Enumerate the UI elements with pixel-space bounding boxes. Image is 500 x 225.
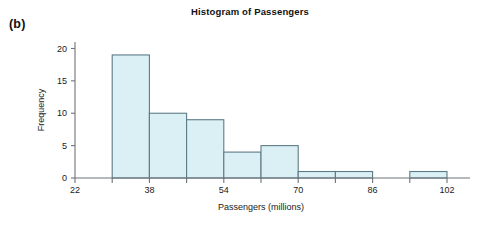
x-axis-title: Passengers (millions): [218, 202, 304, 212]
y-tick-label: 10: [57, 108, 67, 118]
histogram-bar: [335, 172, 372, 178]
bars-group: [112, 55, 447, 178]
y-tick-label: 20: [57, 44, 67, 54]
x-tick-label: 102: [439, 185, 454, 195]
histogram-bar: [149, 113, 186, 178]
histogram-bar: [112, 55, 149, 178]
histogram-bar: [224, 152, 261, 178]
histogram-bar: [261, 146, 298, 178]
y-axis-title: Frequency: [36, 88, 46, 131]
x-tick-label: 86: [368, 185, 378, 195]
x-tick-label: 38: [144, 185, 154, 195]
y-axis-group: 05101520: [57, 42, 75, 183]
x-axis-group: 2238547086102: [70, 178, 470, 195]
histogram-bar: [298, 172, 335, 178]
y-tick-label: 15: [57, 76, 67, 86]
x-tick-label: 22: [70, 185, 80, 195]
histogram-figure: (b) Histogram of Passengers 05101520 223…: [0, 0, 500, 225]
histogram-bar: [410, 172, 447, 178]
x-tick-label: 54: [219, 185, 229, 195]
histogram-bar: [187, 120, 224, 178]
y-tick-label: 0: [62, 173, 67, 183]
histogram-plot: 05101520 2238547086102 Frequency Passeng…: [0, 0, 500, 225]
x-tick-label: 70: [293, 185, 303, 195]
y-tick-label: 5: [62, 141, 67, 151]
